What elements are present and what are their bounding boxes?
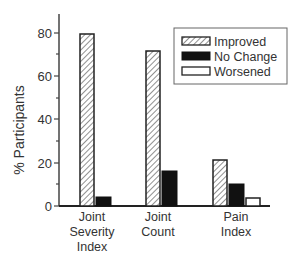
- bar-jsi-nochange: [96, 197, 111, 206]
- category-label: Count: [141, 225, 175, 239]
- y-axis-label: % Participants: [11, 85, 27, 174]
- y-tick-label: 80: [38, 26, 52, 41]
- bar-pain-worsened: [246, 198, 260, 206]
- category-label: Index: [77, 240, 108, 254]
- y-tick-label: 0: [45, 199, 52, 214]
- legend-swatch-improved: [182, 37, 210, 45]
- bar-chart: 0 20 40 60 80 % Participants Joint Sever…: [0, 0, 297, 261]
- legend: Improved No Change Worsened: [174, 28, 287, 84]
- bar-pain-nochange: [229, 184, 244, 206]
- legend-label-worsened: Worsened: [214, 65, 271, 79]
- y-tick-label: 40: [38, 112, 52, 127]
- y-tick-label: 60: [38, 69, 52, 84]
- legend-label-nochange: No Change: [214, 50, 277, 64]
- x-category-labels: Joint Severity Index Joint Count Pain In…: [69, 210, 252, 254]
- category-label: Index: [221, 225, 252, 239]
- y-tick-label: 20: [38, 156, 52, 171]
- category-label: Joint: [79, 210, 106, 224]
- bar-pain-improved: [213, 160, 227, 206]
- legend-label-improved: Improved: [214, 35, 266, 49]
- legend-swatch-worsened: [182, 67, 210, 75]
- legend-swatch-nochange: [182, 52, 210, 60]
- category-label: Severity: [69, 225, 115, 239]
- bar-jc-nochange: [162, 171, 177, 206]
- category-label: Joint: [145, 210, 172, 224]
- bar-jsi-improved: [80, 34, 94, 206]
- bar-jc-improved: [146, 51, 160, 206]
- category-label: Pain: [223, 210, 248, 224]
